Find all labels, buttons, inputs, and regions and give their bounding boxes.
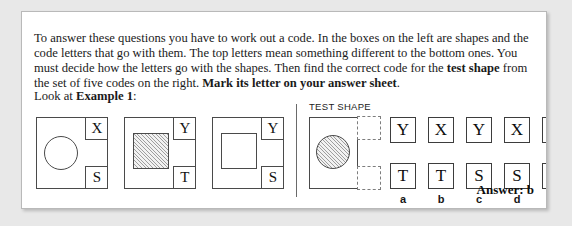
test-shape-label: TEST SHAPE <box>309 101 371 112</box>
option-e-label: e <box>542 193 547 205</box>
test-shape-top-slot <box>357 116 381 140</box>
option-e-top-letter: X <box>542 117 547 143</box>
example-heading-label: Example 1 <box>76 89 133 103</box>
section-divider <box>296 104 297 197</box>
option-b-top-letter: X <box>428 117 454 143</box>
option-e-bottom-letter: Y <box>542 163 547 189</box>
example-1-bottom-letter: S <box>85 166 108 189</box>
example-2-top-letter: Y <box>173 117 196 140</box>
option-c-top-letter: Y <box>466 117 492 143</box>
instructions-bold-mark-letter: Mark its letter on your answer sheet <box>202 76 396 90</box>
instructions-paragraph: To answer these questions you have to wo… <box>34 31 534 92</box>
example-heading-prefix: Look at <box>34 89 76 103</box>
example-box-2: Y T <box>124 117 196 189</box>
option-a-label: a <box>390 193 416 205</box>
option-b-bottom-letter: T <box>428 163 454 189</box>
example-1-top-letter: X <box>85 117 108 140</box>
option-a-top-letter: Y <box>390 117 416 143</box>
test-shape-frame-edge <box>357 140 358 166</box>
shape-square-hatched <box>133 133 169 169</box>
instructions-text-part3: . <box>397 76 400 90</box>
option-d-top-letter: X <box>504 117 530 143</box>
shape-square-outline <box>221 133 257 169</box>
option-a-bottom-letter: T <box>390 163 416 189</box>
shape-circle-outline <box>44 136 78 170</box>
instructions-bold-test-shape: test shape <box>447 61 500 75</box>
worksheet-page: To answer these questions you have to wo… <box>21 11 547 209</box>
test-shape-circle-hatched <box>316 135 350 169</box>
example-heading: Look at Example 1: <box>34 89 137 104</box>
example-box-1: X S <box>36 117 108 189</box>
example-3-bottom-letter: S <box>261 166 284 189</box>
example-box-3: Y S <box>212 117 284 189</box>
test-shape-bottom-slot <box>357 166 381 190</box>
option-b-label: b <box>428 193 454 205</box>
example-2-bottom-letter: T <box>173 166 196 189</box>
example-heading-suffix: : <box>133 89 137 103</box>
answer-text: Answer: b <box>477 182 534 198</box>
example-3-top-letter: Y <box>261 117 284 140</box>
test-shape-box <box>309 117 381 189</box>
